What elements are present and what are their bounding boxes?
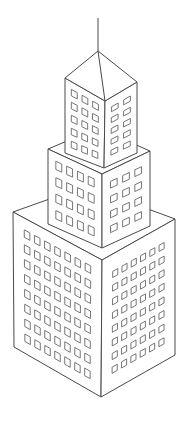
skyscraper-illustration: Isometric skyscraper line drawing	[0, 0, 184, 423]
skyscraper-drawing	[0, 0, 184, 423]
